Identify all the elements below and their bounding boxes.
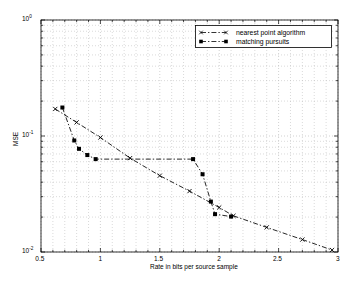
x-marker-icon (53, 107, 57, 111)
x-tick-label: 1.5 (154, 256, 163, 263)
x-marker-icon (330, 248, 334, 252)
x-tick-label: 2 (217, 256, 221, 263)
x-marker-icon (158, 174, 162, 178)
square-marker-icon (209, 200, 213, 204)
x-axis-title: Rate in bits per source sample (150, 264, 238, 271)
y-tick-label: 10-2 (22, 248, 33, 255)
x-marker-icon (128, 156, 132, 160)
square-marker-icon (213, 212, 217, 216)
chart-legend: nearest point algorithm matching pursuit… (196, 26, 332, 48)
y-axis-title: MSE (13, 132, 20, 146)
x-tick-label: 0.5 (35, 256, 44, 263)
square-marker-icon (60, 106, 64, 110)
x-tick-label: 3 (336, 256, 340, 263)
grid-lines (41, 20, 338, 252)
square-marker-icon (94, 157, 98, 161)
x-marker-icon (98, 135, 102, 139)
y-tick-label: 100 (22, 16, 32, 23)
square-marker-icon (85, 153, 89, 157)
chart-figure: nearest point algorithm matching pursuit… (0, 0, 352, 284)
legend-label-matching-pursuits: matching pursuits (236, 38, 290, 46)
x-marker-icon (75, 120, 79, 124)
square-marker-icon (229, 215, 233, 219)
x-tick-label: 2.5 (273, 256, 282, 263)
x-marker-icon (187, 189, 191, 193)
x-marker-icon (300, 237, 304, 241)
chart-canvas: nearest point algorithm matching pursuit… (0, 0, 352, 284)
data-series-layer (53, 106, 334, 253)
square-marker-icon (191, 157, 195, 161)
square-marker-icon (201, 172, 205, 176)
series-nearest-point-algorithm (53, 107, 334, 252)
square-marker-icon (72, 138, 76, 142)
y-tick-label: 10-1 (22, 132, 33, 139)
legend-label-nearest-point-algorithm: nearest point algorithm (236, 29, 305, 37)
x-marker-icon (265, 225, 269, 229)
x-tick-label: 1 (99, 256, 103, 263)
square-marker-icon (77, 147, 81, 151)
